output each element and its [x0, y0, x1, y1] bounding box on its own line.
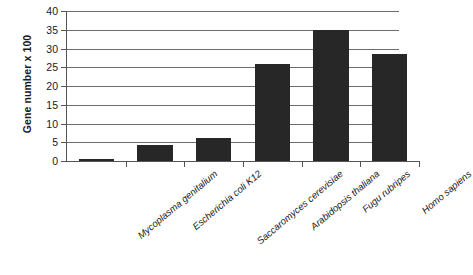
bar-slot	[302, 11, 361, 161]
bar-slot	[184, 11, 243, 161]
x-axis-tick	[243, 161, 244, 167]
bar-slot	[126, 11, 185, 161]
y-axis-tick-label: 40	[46, 5, 58, 17]
y-axis-title: Gene number x 100	[18, 16, 36, 152]
x-axis-category-label: Mycoplasma genitalium	[135, 168, 219, 241]
x-axis-tick	[419, 161, 420, 167]
x-axis-tick	[302, 161, 303, 167]
y-axis-tick-label: 5	[52, 136, 58, 148]
bar	[372, 54, 407, 161]
bar-slot	[360, 11, 419, 161]
bar	[196, 138, 231, 161]
y-axis-tick-label: 15	[46, 99, 58, 111]
y-axis-tick-label: 25	[46, 61, 58, 73]
x-axis-tick	[126, 161, 127, 167]
bar-slot	[67, 11, 126, 161]
x-axis-tick	[360, 161, 361, 167]
x-axis-tick	[184, 161, 185, 167]
y-axis-tick	[61, 161, 67, 162]
y-axis-tick-label: 20	[46, 80, 58, 92]
bar-slot	[243, 11, 302, 161]
bar	[313, 30, 348, 161]
x-axis-category-label: Homo sapiens	[419, 168, 473, 216]
y-axis-tick-label: 30	[46, 43, 58, 55]
y-axis-tick-label: 35	[46, 24, 58, 36]
y-axis-tick-label: 0	[52, 155, 58, 167]
bar	[255, 64, 290, 161]
bar	[79, 159, 114, 161]
y-axis-tick-label: 10	[46, 118, 58, 130]
bar	[137, 145, 172, 161]
plot-area: 0510152025303540	[66, 11, 419, 162]
